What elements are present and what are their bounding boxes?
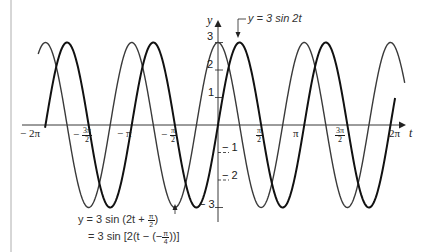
annotation-text: ))] <box>169 230 179 242</box>
x-tick-pi: π <box>293 128 299 139</box>
x-tick-neg2pi: − 2π <box>20 128 40 139</box>
annotation-text: y = 3 sin 2t <box>248 12 302 24</box>
x-tick-pi2: π2 <box>256 127 262 144</box>
y-tick-1: 1 <box>208 87 214 98</box>
x-tick-3pi2: 3π2 <box>335 127 345 144</box>
annotation-frac-num: π <box>148 213 155 221</box>
annotation-shifted-curve-line1: y = 3 sin (2t + π2) <box>78 213 158 228</box>
y-tick-neg2: − 2 <box>222 170 238 181</box>
y-tick-3: 3 <box>207 31 213 42</box>
annotation-leader-top <box>238 19 246 33</box>
y-tick-neg3: − 3 <box>199 199 215 210</box>
y-tick-2: 2 <box>207 59 213 70</box>
x-tick-den: 2 <box>171 136 175 144</box>
x-tick-den: 2 <box>85 136 89 144</box>
annotation-text: = 3 sin [2(t − (− <box>88 230 162 242</box>
y-axis-arrow-icon <box>215 20 222 27</box>
t-axis-label: t <box>409 127 412 139</box>
annotation-shifted-curve-line2: = 3 sin [2(t − (−π4))] <box>88 230 180 245</box>
x-tick-negpi2: − π2 <box>161 127 176 144</box>
x-tick-neg3pi2: − 3π2 <box>73 127 92 144</box>
annotation-frac-den: 4 <box>164 238 168 245</box>
x-tick-den: 2 <box>257 136 261 144</box>
y-tick-neg1: − 1 <box>222 142 238 153</box>
x-tick-2pi: 2π <box>389 128 400 139</box>
x-tick-sign: − <box>73 128 79 140</box>
annotation-text: ) <box>155 213 159 225</box>
plot-area <box>0 0 430 252</box>
annotation-base-curve: y = 3 sin 2t <box>248 12 302 24</box>
annotation-arrow-top-icon <box>236 32 241 38</box>
x-tick-den: 2 <box>338 136 342 144</box>
annotation-text: y = 3 sin (2t + <box>78 213 148 225</box>
x-tick-sign: − <box>161 128 167 140</box>
x-tick-negpi: − π <box>117 128 132 139</box>
y-axis-label: y <box>207 14 212 26</box>
annotation-frac-den: 2 <box>149 221 153 228</box>
